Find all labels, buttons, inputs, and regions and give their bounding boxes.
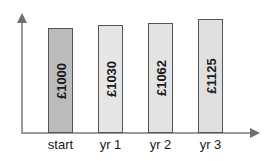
- bar-value-label-yr-2: £1062: [154, 60, 167, 96]
- bar-yr-1: £1030: [98, 25, 123, 133]
- bar-yr-3: £1125: [198, 19, 223, 133]
- plot-area: £1000 £1030 £1062 £1125 start yr 1 yr 2 …: [0, 0, 268, 161]
- bar-start: £1000: [48, 28, 73, 133]
- bar-value-label-yr-3: £1125: [204, 58, 217, 93]
- x-axis-label-yr-3: yr 3: [181, 138, 241, 151]
- bar-value-label-yr-1: £1030: [104, 61, 117, 97]
- bar-chart: £1000 £1030 £1062 £1125 start yr 1 yr 2 …: [0, 0, 268, 161]
- bar-value-label-start: £1000: [54, 62, 67, 98]
- bar-yr-2: £1062: [148, 23, 173, 133]
